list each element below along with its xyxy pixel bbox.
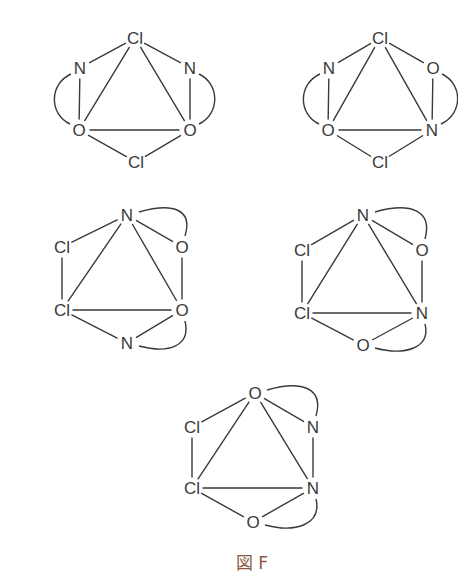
figure-caption: 図 F xyxy=(236,553,268,573)
bond-line xyxy=(137,221,173,242)
bond-line xyxy=(333,48,374,121)
structure-3: NClOClON xyxy=(54,206,189,353)
bond-line xyxy=(338,44,370,63)
bond-line xyxy=(198,402,249,479)
atom-label-cl: Cl xyxy=(54,238,70,257)
curved-bond xyxy=(265,499,317,528)
curved-bond xyxy=(375,208,427,239)
curved-bond xyxy=(303,74,320,124)
atom-label-cl: Cl xyxy=(184,418,200,437)
curved-bond xyxy=(375,324,426,351)
bond-line xyxy=(85,47,130,120)
atom-label-n: N xyxy=(121,334,133,353)
bond-line xyxy=(133,225,177,301)
atom-label-n: N xyxy=(307,418,319,437)
bond-line xyxy=(328,79,329,119)
atom-label-n: N xyxy=(307,479,319,498)
structure-4: NClOClNO xyxy=(294,206,429,355)
curved-bond xyxy=(267,386,318,416)
bond-line xyxy=(136,316,172,338)
structure-1: ClNNOOCl xyxy=(54,29,214,172)
atom-label-n: N xyxy=(323,59,335,78)
bond-line xyxy=(389,136,422,156)
curved-bond xyxy=(199,74,215,124)
atom-label-o: O xyxy=(248,384,261,403)
atom-label-o: O xyxy=(183,121,196,140)
curved-bond xyxy=(441,74,458,124)
structure-2: ClNOONCl xyxy=(303,29,457,172)
figure-f: ClNNOOClClNOONClNClOClONNClOClNOOClNClNO… xyxy=(0,0,458,575)
bond-line xyxy=(141,47,185,120)
atom-label-o: O xyxy=(175,238,188,257)
atom-label-o: O xyxy=(321,121,334,140)
bond-line xyxy=(79,79,80,119)
atom-label-o: O xyxy=(175,301,188,320)
curved-bond xyxy=(139,208,187,236)
atom-label-o: O xyxy=(246,513,259,532)
atom-label-cl: Cl xyxy=(294,241,310,260)
bond-line xyxy=(369,224,417,303)
bond-line xyxy=(390,43,424,62)
structure-5: OClNClNO xyxy=(184,384,319,532)
curved-bond xyxy=(139,321,186,349)
curved-bond xyxy=(54,74,71,124)
atom-label-cl: Cl xyxy=(372,29,388,48)
bond-line xyxy=(68,224,121,301)
atom-label-n: N xyxy=(184,59,196,78)
atom-label-n: N xyxy=(121,206,133,225)
atom-label-o: O xyxy=(72,121,85,140)
bond-line xyxy=(261,402,308,478)
bond-line xyxy=(308,224,357,303)
bond-line xyxy=(202,493,244,516)
bond-line xyxy=(385,48,426,121)
molecular-structures: ClNNOOClClNOONClNClOClONNClOClNOOClNClNO xyxy=(54,29,458,532)
atom-label-cl: Cl xyxy=(128,153,144,172)
atom-label-o: O xyxy=(426,59,439,78)
bond-line xyxy=(263,493,304,516)
bond-line xyxy=(89,135,127,156)
bond-line xyxy=(145,43,181,62)
atom-label-cl: Cl xyxy=(127,29,143,48)
bond-line xyxy=(145,136,180,157)
atom-label-o: O xyxy=(415,241,428,260)
atom-label-n: N xyxy=(74,59,86,78)
atom-label-cl: Cl xyxy=(54,301,70,320)
atom-label-cl: Cl xyxy=(184,479,200,498)
bond-line xyxy=(432,79,433,119)
bond-line xyxy=(90,43,126,62)
atom-label-cl: Cl xyxy=(372,153,388,172)
atom-label-o: O xyxy=(356,336,369,355)
atom-label-cl: Cl xyxy=(294,304,310,323)
atom-label-n: N xyxy=(416,304,428,323)
bond-line xyxy=(72,315,117,338)
bond-line xyxy=(373,318,413,340)
atom-label-n: N xyxy=(357,206,369,225)
bond-line xyxy=(337,136,370,156)
bond-line xyxy=(312,318,354,340)
atom-label-n: N xyxy=(426,121,438,140)
